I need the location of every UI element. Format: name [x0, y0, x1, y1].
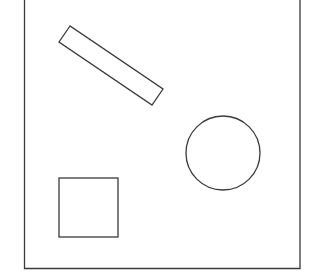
- diagram-canvas: [0, 0, 310, 275]
- background: [0, 0, 310, 275]
